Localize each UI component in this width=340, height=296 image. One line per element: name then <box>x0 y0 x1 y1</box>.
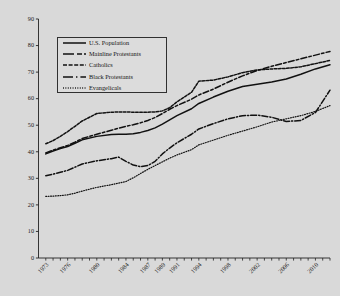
legend-label: Catholics <box>89 62 113 68</box>
y-tick-label: 80 <box>28 41 34 48</box>
legend-item-black-protestants: Black Protestants <box>58 71 166 82</box>
y-tick-label: 60 <box>28 94 34 101</box>
legend-swatch-dotted <box>62 84 88 92</box>
x-tick-label: 1976 <box>58 261 72 275</box>
y-tick-label: 90 <box>28 15 34 22</box>
x-tick-label: 1984 <box>116 261 130 275</box>
legend-label: Mainline Protestants <box>89 51 141 57</box>
legend-swatch-dashed <box>62 50 88 58</box>
x-tick-label: 2002 <box>247 261 261 275</box>
legend-label: U.S. Population <box>89 40 129 46</box>
legend-label: Black Protestants <box>89 74 133 80</box>
x-tick-label: 1980 <box>87 261 101 275</box>
legend-swatch-dashdot-short <box>62 61 88 69</box>
y-tick-label: 0 <box>31 254 34 261</box>
y-axis-tick-labels: 0102030405060708090 <box>28 15 34 261</box>
y-tick-label: 30 <box>28 174 34 181</box>
y-tick-label: 70 <box>28 68 34 75</box>
y-tick-label: 20 <box>28 201 34 208</box>
y-tick-label: 50 <box>28 121 34 128</box>
chart-canvas: 0102030405060708090 19731976198019841987… <box>0 0 340 296</box>
legend-item-evangelicals: Evangelicals <box>58 82 166 93</box>
x-tick-label: 1987 <box>138 261 152 275</box>
x-tick-label: 1991 <box>167 261 181 275</box>
legend-item-catholics: Catholics <box>58 60 166 71</box>
x-tick-label: 1994 <box>189 261 203 275</box>
legend-label: Evangelicals <box>89 85 121 91</box>
legend-item-mainline-protestants: Mainline Protestants <box>58 49 166 60</box>
x-tick-label: 1989 <box>153 261 167 275</box>
line-chart: 0102030405060708090 19731976198019841987… <box>0 0 340 296</box>
legend-swatch-solid <box>62 39 88 47</box>
legend-item-us-population: U.S. Population <box>58 38 166 49</box>
x-tick-label: 1998 <box>218 261 232 275</box>
x-tick-label: 2006 <box>276 261 290 275</box>
x-tick-label: 2010 <box>306 261 320 275</box>
y-tick-label: 40 <box>28 148 34 155</box>
chart-legend: U.S. Population Mainline Protestants Cat… <box>57 37 167 93</box>
x-tick-label: 1973 <box>36 261 50 275</box>
x-axis-tick-labels: 1973197619801984198719891991199419982002… <box>36 261 319 275</box>
series-line <box>46 90 330 176</box>
series-line <box>46 106 330 197</box>
y-tick-label: 10 <box>28 227 34 234</box>
legend-swatch-dashdot <box>62 73 88 81</box>
